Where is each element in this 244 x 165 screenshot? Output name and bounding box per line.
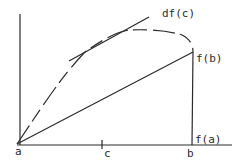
tangent-line <box>69 17 149 61</box>
label-a: a <box>15 145 22 158</box>
mvt-diagram: a c b f(a) f(b) df(c) <box>0 0 244 165</box>
label-f-a: f(a) <box>195 133 222 146</box>
function-curve <box>17 30 193 144</box>
label-df-c: df(c) <box>162 7 195 20</box>
secant-line <box>17 52 193 144</box>
vertical-line-b <box>192 52 193 145</box>
label-f-b: f(b) <box>196 52 223 65</box>
label-c: c <box>104 147 111 160</box>
label-b: b <box>187 147 194 160</box>
